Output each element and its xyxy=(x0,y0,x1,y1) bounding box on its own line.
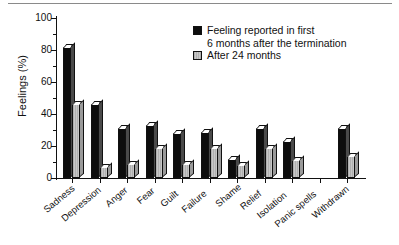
chart-figure: Feelings (%) 100806040200 SadnessDepress… xyxy=(0,0,399,245)
bar xyxy=(338,128,346,178)
bar-side-face xyxy=(108,162,112,177)
y-axis-minor-tick xyxy=(53,98,56,99)
y-axis-major-tick xyxy=(51,18,56,19)
bar xyxy=(155,148,163,178)
y-axis-minor-tick xyxy=(53,34,56,35)
bar xyxy=(118,128,126,178)
bar-side-face xyxy=(80,100,84,177)
legend-label-line2: 6 months after the termination xyxy=(207,37,347,49)
bar xyxy=(237,165,245,178)
y-axis-major-tick xyxy=(51,82,56,83)
bar xyxy=(146,125,154,178)
bar xyxy=(347,156,355,178)
legend-entry-first-6-months-line2: 6 months after the termination xyxy=(193,37,347,50)
bar xyxy=(201,132,209,178)
bar-side-face xyxy=(245,161,249,177)
x-axis-label: Anger xyxy=(103,184,129,209)
legend-entry-first-6-months: Feeling reported in first xyxy=(193,24,347,37)
bar xyxy=(173,133,181,178)
y-axis-major-tick xyxy=(51,114,56,115)
bar-side-face xyxy=(190,159,194,177)
bar-group xyxy=(63,18,91,178)
y-axis-line xyxy=(56,16,57,180)
legend-entry-after-24-months: After 24 months xyxy=(193,49,347,62)
bar-group xyxy=(146,18,174,178)
bar-side-face xyxy=(218,143,222,177)
gray-swatch-icon xyxy=(193,51,202,60)
bar-side-face xyxy=(273,143,277,177)
bar xyxy=(72,104,80,178)
x-axis-label: Guilt xyxy=(158,188,180,209)
bar-side-face xyxy=(163,143,167,177)
bar xyxy=(127,164,135,178)
bar-group xyxy=(118,18,146,178)
x-axis-category-labels: SadnessDepressionAngerFearGuiltFailureSh… xyxy=(56,182,399,245)
bar xyxy=(228,159,236,178)
bar xyxy=(100,167,108,178)
legend-label-line1: Feeling reported in first xyxy=(207,24,314,36)
bar-side-face xyxy=(300,156,304,177)
x-axis-label: Fear xyxy=(134,185,156,206)
chart-legend: Feeling reported in first 6 months after… xyxy=(193,24,347,62)
bar-side-face xyxy=(135,159,139,177)
bar xyxy=(210,148,218,178)
x-axis-label: Failure xyxy=(179,188,208,215)
legend-label-after-24: After 24 months xyxy=(207,49,281,61)
top-divider-rule xyxy=(8,3,392,4)
y-axis-minor-tick xyxy=(53,162,56,163)
x-axis-label: Withdrawn xyxy=(309,183,350,220)
bar xyxy=(91,104,99,178)
y-axis-minor-tick xyxy=(53,130,56,131)
black-swatch-icon xyxy=(193,26,202,35)
y-axis-major-tick xyxy=(51,50,56,51)
bar xyxy=(283,141,291,178)
bar xyxy=(63,47,71,178)
bar-group xyxy=(91,18,119,178)
y-axis-major-tick xyxy=(51,178,56,179)
bar xyxy=(256,128,264,178)
bar-side-face xyxy=(355,151,359,177)
y-axis-tick-labels: 100806040200 xyxy=(18,18,52,178)
bar xyxy=(265,148,273,178)
bar xyxy=(292,160,300,178)
y-axis-minor-tick xyxy=(53,66,56,67)
y-axis-major-tick xyxy=(51,146,56,147)
bar xyxy=(182,164,190,178)
y-axis-tick-label: 100 xyxy=(35,13,52,23)
